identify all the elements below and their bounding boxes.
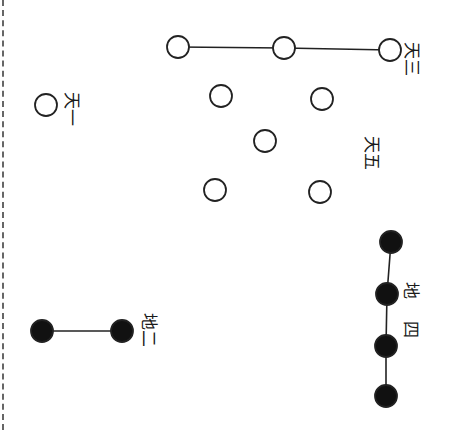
connector-di-si [386,242,391,396]
filled-dot-di-si-1 [380,231,402,253]
filled-dot-di-si-2 [376,283,398,305]
filled-dot-di-er-2 [111,320,133,342]
filled-dot-di-si-3 [375,335,397,357]
hollow-dot-tian-san-3 [379,39,401,61]
label-tian-wu: 天五 [362,136,382,170]
label-tian-yi: 天一 [62,92,82,126]
hollow-dot-tian-san-2 [273,37,295,59]
hetu-dot-diagram: 天一 天三 天五 地二 地四 [0,0,472,430]
hollow-dot-tian-wu-4 [204,179,226,201]
hollow-dot-tian-wu-2 [311,88,333,110]
dot-markers [31,36,402,407]
hollow-dot-tian-wu-1 [210,85,232,107]
hollow-dot-tian-wu-5 [309,181,331,203]
filled-dot-di-si-4 [375,385,397,407]
label-di-si: 地四 [401,282,421,360]
filled-dot-di-er-1 [31,320,53,342]
label-tian-san: 天三 [402,42,422,76]
label-di-er: 地二 [139,313,159,347]
hollow-dot-tian-yi-1 [35,94,57,116]
hollow-dot-tian-wu-3 [254,130,276,152]
hollow-dot-tian-san-1 [167,36,189,58]
